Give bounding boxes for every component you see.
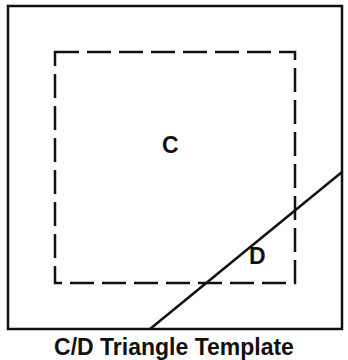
diagram-caption: C/D Triangle Template: [0, 336, 348, 359]
diagonal-line: [150, 172, 342, 329]
region-c-label: C: [162, 134, 179, 157]
region-d-label: D: [249, 245, 266, 268]
outer-square: [8, 6, 342, 329]
